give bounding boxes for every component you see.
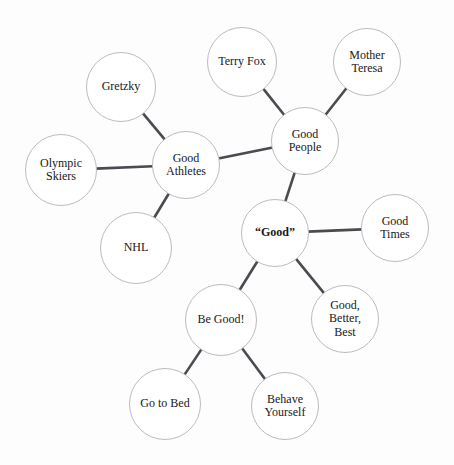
edge-good-people-to-terry-fox [263, 89, 284, 116]
edge-good-athletes-to-gretzky [143, 113, 165, 140]
node-label-gretzky: Gretzky [99, 80, 144, 93]
node-label-behave-yourself: Behave Yourself [262, 393, 309, 420]
node-behave-yourself[interactable]: Behave Yourself [251, 372, 319, 440]
node-be-good[interactable]: Be Good! [185, 284, 257, 356]
node-label-olympic-skiers: Olympic Skiers [37, 157, 85, 184]
edge-be-good-to-go-to-bed [184, 349, 201, 375]
node-label-mother-teresa: Mother Teresa [346, 49, 387, 76]
node-mother-teresa[interactable]: Mother Teresa [333, 28, 401, 96]
edge-good-athletes-to-olympic-skiers [96, 166, 153, 168]
edge-be-good-to-behave-yourself [242, 348, 265, 379]
mind-map-canvas: “Good”Good AthletesGood PeopleGood Times… [0, 0, 454, 465]
node-terry-fox[interactable]: Terry Fox [207, 27, 277, 97]
node-label-good-times: Good Times [377, 215, 413, 242]
node-nhl[interactable]: NHL [100, 212, 172, 284]
node-label-terry-fox: Terry Fox [215, 55, 268, 68]
node-label-good-people: Good People [286, 128, 325, 155]
node-label-nhl: NHL [121, 241, 152, 254]
node-good-better-best[interactable]: Good, Better, Best [311, 285, 379, 353]
node-label-good-better-best: Good, Better, Best [326, 299, 364, 339]
edge-good-to-be-good [239, 261, 257, 290]
node-label-go-to-bed: Go to Bed [137, 397, 192, 410]
node-good-people[interactable]: Good People [271, 107, 339, 175]
edge-good-to-good-better-best [296, 259, 324, 294]
edge-good-people-to-mother-teresa [325, 88, 346, 115]
node-gretzky[interactable]: Gretzky [86, 52, 156, 122]
node-label-good: “Good” [252, 226, 298, 239]
node-label-good-athletes: Good Athletes [163, 152, 209, 179]
node-good-times[interactable]: Good Times [361, 194, 429, 262]
node-go-to-bed[interactable]: Go to Bed [129, 368, 201, 440]
edge-good-to-good-people [285, 172, 295, 201]
edge-good-to-good-times [308, 229, 362, 231]
node-label-be-good: Be Good! [195, 313, 248, 326]
node-good-athletes[interactable]: Good Athletes [152, 131, 220, 199]
node-olympic-skiers[interactable]: Olympic Skiers [25, 134, 97, 206]
edge-good-people-to-good-athletes [218, 148, 272, 159]
edge-good-athletes-to-nhl [154, 193, 169, 218]
node-good[interactable]: “Good” [241, 199, 309, 267]
